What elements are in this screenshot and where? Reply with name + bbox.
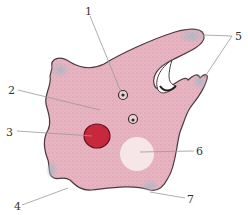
- label-7: 7: [187, 194, 194, 205]
- label-5: 5: [235, 31, 242, 42]
- label-1: 1: [85, 6, 92, 17]
- pseudopod-tip: [178, 28, 206, 44]
- pseudopod-tip: [50, 62, 70, 78]
- label-3: 3: [6, 127, 13, 138]
- label-4: 4: [14, 201, 21, 212]
- pseudopod-tip: [140, 180, 160, 192]
- vacuole-content: [131, 118, 134, 121]
- contractile-vacuole: [120, 137, 154, 171]
- amoeba-diagram: 1 2 3 4 5 6 7: [0, 0, 248, 215]
- label-6: 6: [196, 146, 203, 157]
- pseudopod-tip: [46, 161, 58, 179]
- vacuole-content: [121, 93, 124, 96]
- amoeba-illustration: [0, 0, 248, 215]
- pseudopod-tip: [192, 74, 208, 90]
- label-2: 2: [8, 85, 15, 96]
